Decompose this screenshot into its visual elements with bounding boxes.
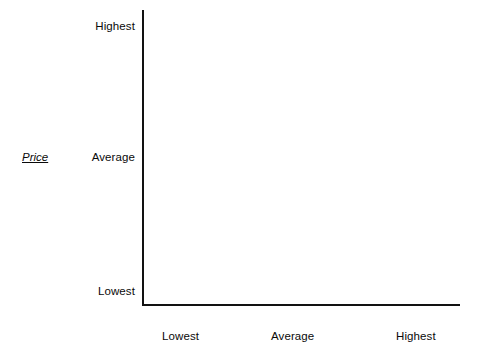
x-axis-tick-highest: Highest: [396, 329, 436, 343]
y-axis-tick-highest: Highest: [95, 19, 135, 33]
plot-area: [144, 10, 460, 304]
y-axis-tick-lowest: Lowest: [98, 284, 135, 298]
x-axis-line: [142, 304, 460, 306]
y-axis-title: Price: [22, 150, 48, 164]
x-axis-tick-lowest: Lowest: [162, 329, 199, 343]
x-axis-tick-average: Average: [271, 329, 314, 343]
price-positioning-chart: Price Highest Average Lowest Lowest Aver…: [0, 0, 477, 359]
y-axis-tick-average: Average: [92, 150, 135, 164]
